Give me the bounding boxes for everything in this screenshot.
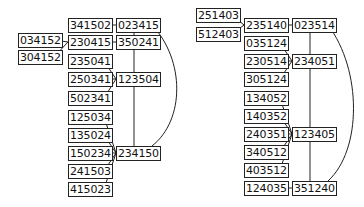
permutation-node: 134052: [244, 91, 289, 106]
permutation-node: 403512: [244, 163, 289, 178]
permutation-node: 251403: [196, 8, 241, 23]
permutation-node: 135024: [68, 128, 113, 143]
permutation-node: 250341: [68, 72, 113, 87]
permutation-node: 123504: [116, 72, 161, 87]
permutation-node: 241503: [68, 164, 113, 179]
permutation-node: 123405: [292, 127, 337, 142]
permutation-node: 340512: [244, 145, 289, 160]
permutation-node: 034152: [18, 33, 63, 48]
permutation-node: 235041: [68, 54, 113, 69]
permutation-node: 035124: [244, 36, 289, 51]
permutation-node: 023415: [116, 18, 161, 33]
permutation-node: 502341: [68, 91, 113, 106]
permutation-node: 350241: [116, 35, 161, 50]
permutation-node: 351240: [292, 181, 337, 196]
permutation-node: 023514: [292, 18, 337, 33]
permutation-node: 240351: [244, 127, 289, 142]
permutation-node: 125034: [68, 110, 113, 125]
permutation-node: 140352: [244, 109, 289, 124]
permutation-node: 150234: [68, 146, 113, 161]
permutation-node: 512403: [196, 27, 241, 42]
permutation-node: 230514: [244, 54, 289, 69]
permutation-node: 234150: [116, 146, 161, 161]
permutation-node: 124035: [244, 181, 289, 196]
permutation-node: 304152: [18, 50, 63, 65]
permutation-node: 341502: [68, 18, 113, 33]
permutation-node: 415023: [68, 182, 113, 197]
permutation-node: 305124: [244, 72, 289, 87]
permutation-node: 235140: [244, 18, 289, 33]
permutation-node: 234051: [292, 54, 337, 69]
permutation-node: 230415: [68, 35, 113, 50]
